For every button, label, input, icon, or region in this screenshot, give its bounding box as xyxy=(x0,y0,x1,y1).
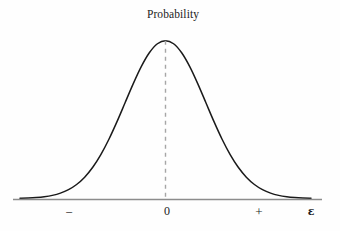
distribution-plot xyxy=(0,0,340,231)
x-tick-zero: 0 xyxy=(164,205,170,217)
x-tick-positive: + xyxy=(255,205,262,218)
probability-distribution-figure: Probability − 0 + ε xyxy=(0,0,340,231)
x-tick-negative: − xyxy=(65,206,72,219)
page-title: Probability xyxy=(3,9,340,21)
x-axis-label-epsilon: ε xyxy=(308,206,315,217)
bell-curve-path xyxy=(20,41,311,199)
